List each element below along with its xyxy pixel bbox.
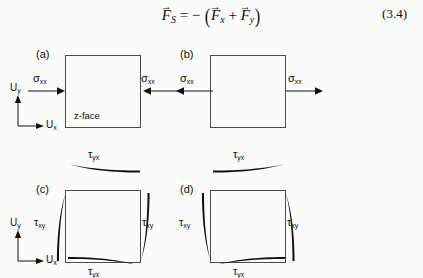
panel-a-face-label: z-face <box>74 110 100 121</box>
close-paren: ) <box>255 4 260 29</box>
panel-c-tau-top-label: τyx <box>88 148 99 161</box>
panel-d-bottom-shear-arrow-icon <box>211 255 287 268</box>
vector-arrow-icon: → <box>240 0 250 12</box>
force-y-vector: →F <box>241 7 250 24</box>
force-y-subscript: y <box>250 14 254 25</box>
panel-d-right-shear-arrow-icon <box>283 191 296 263</box>
panel-d-tau-left-label: τxy <box>179 216 190 229</box>
panel-d-tau-top-label: τyx <box>233 148 244 161</box>
equals-sign: = <box>180 7 188 23</box>
panel-d-top-shear-arrow-icon <box>211 161 287 174</box>
panel-a-axis-y-label: Uy <box>10 82 21 94</box>
vector-arrow-icon: → <box>210 0 220 12</box>
panel-c-element-box <box>65 190 141 263</box>
equation-expression: →FS = − (→Fx + →Fy) <box>162 4 262 29</box>
force-x-subscript: x <box>220 14 224 25</box>
panel-d-element-box <box>210 190 286 263</box>
panel-a-axes-icon <box>14 88 48 132</box>
panel-c-right-shear-arrow-icon <box>138 191 151 263</box>
panel-d-left-shear-arrow-icon <box>200 191 213 263</box>
minus-sign: − <box>192 7 200 23</box>
panel-label-d: (d) <box>180 183 193 195</box>
force-x-vector: →F <box>211 7 220 24</box>
panel-c-bottom-shear-arrow-icon <box>66 255 142 268</box>
panel-a-axis-x-label: Ux <box>46 119 57 131</box>
equation-3-4: →FS = − (→Fx + →Fy) <box>0 4 423 29</box>
panel-b-right-arrow-icon <box>286 84 326 98</box>
panel-c-axis-y-label: Uy <box>10 217 21 229</box>
panel-c-left-shear-arrow-icon <box>55 191 68 263</box>
plus-sign: + <box>228 7 236 23</box>
force-s-vector: →F <box>162 7 171 24</box>
panel-c-top-shear-arrow-icon <box>66 161 142 174</box>
force-s-subscript: S <box>171 14 176 25</box>
panel-label-c: (c) <box>36 183 49 195</box>
panel-c-axes-icon <box>14 223 48 267</box>
panel-label-b: (b) <box>180 48 193 60</box>
panel-c-axis-x-label: Ux <box>46 254 57 266</box>
equation-number: (3.4) <box>382 6 407 22</box>
panel-b-left-arrow-icon <box>174 84 214 98</box>
vector-arrow-icon: → <box>161 0 171 12</box>
panel-b-element-box <box>210 55 286 128</box>
panel-label-a: (a) <box>36 48 49 60</box>
